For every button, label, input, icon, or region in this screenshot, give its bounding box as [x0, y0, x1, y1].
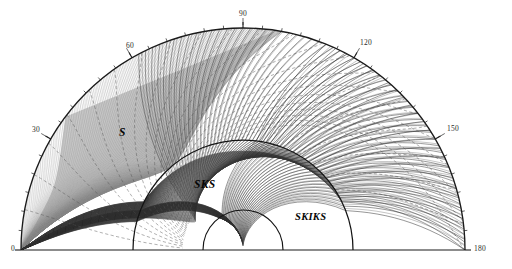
seismic-ray-diagram [0, 0, 512, 269]
